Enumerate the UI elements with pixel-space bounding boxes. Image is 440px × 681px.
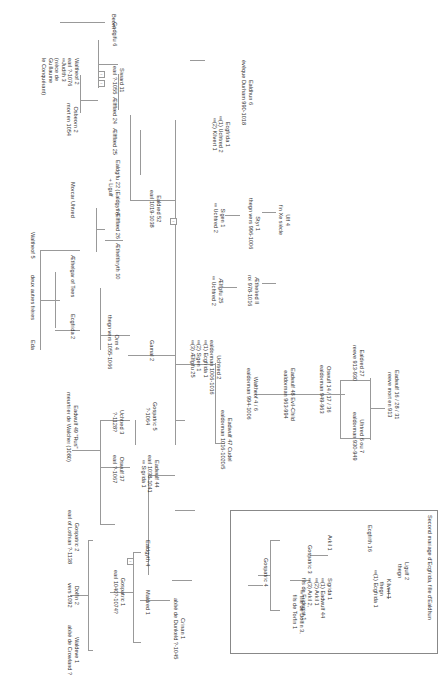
name: Gospatric 2 [73,510,80,564]
collapse-toggle[interactable]: − [98,71,105,78]
detail: fin Xe siècle [278,205,285,235]
connector [248,585,263,586]
detail: earl of Lothian ?-1138 [67,510,74,564]
connector [105,240,123,241]
node-uhtred3: Uchtred 3?-1128? [112,410,125,434]
node-uhtred2: Uchtred 2ealdorman 1006-1016∞(1) Ecgfrid… [189,340,222,395]
name: Æthelred II [253,275,260,306]
detail: abbé de Dunkeld ?-1045 [173,598,180,659]
node-aethelred: Æthelred IIroi 978-1016 [247,275,260,306]
name: Ecgfrida 2 [69,314,76,339]
name: Gamal 2 [148,340,155,361]
detail: ∞(3) Ælfgifu 25 [189,340,196,395]
node-eda: Eda [29,340,36,350]
detail: fils de Torfin 1 [292,590,299,634]
second-marriage-inset [230,510,438,654]
name: Oswulf 14 / 17 / 36 [325,365,332,414]
detail: earl ?-1076 [67,58,74,95]
name: Ælfflæd 25 [111,128,118,155]
detail: le Conquérant) [40,58,47,95]
detail: earl 1038-1041 [147,455,154,493]
connector [370,408,385,409]
node-aelfflaed25: Ælfflæd 25 [111,128,118,155]
connector [222,287,237,288]
connector [96,229,105,230]
node-aelfflaed24: Ælfflæd 24 [111,97,118,124]
name: Kilvert 1 [385,570,392,608]
node-maldred: Maldred 1 [144,590,151,615]
name: Æthelgar of Tees [69,255,76,297]
collapse-toggle[interactable]: − [170,218,177,225]
connector [270,610,280,611]
name: Orm 4 [113,315,120,369]
node-deux-freres: deux autres frères [29,275,36,320]
name: Eadwulf 49 "Rus" [72,392,79,462]
name: Gospatric 5 [151,402,158,431]
name: Uhtred 6 ou 7 [358,412,365,461]
connector [225,215,240,216]
detail: meurtrier de Walcher (1080) [66,392,73,462]
detail: reeve mort en 913 [387,370,394,419]
name: Eadwulf 47 Cudel [226,410,233,469]
detail: ∞(2) Sigen 1 [196,340,203,395]
connector [88,540,89,650]
name: Morcar Uhtred [69,182,76,218]
connector [270,540,280,541]
node-sigen: Sigen 1∞ Uchtred 2 [213,203,226,233]
node-eadwulf44: Eadwulf 44earl 1038-1041∞ Sigrida 1 [140,455,160,493]
node-eadwulf48: Eadwulf 48 Evil-Childealdorman 963-994 [283,368,296,421]
connector [135,420,136,445]
name: Maldred 1 [144,590,151,615]
name: Ealdred 27 [358,345,365,381]
connector [88,650,93,651]
detail: évêque Durham 990-1018 [241,60,248,125]
connector [172,580,192,581]
node-ealdhun: Ealdhun 6évêque Durham 990-1018 [241,60,254,125]
detail: reeve 913-930 [352,345,359,381]
detail: ∞ Sigrida 1 [140,455,147,493]
name: Eadwulf 48 Evil-Child [289,368,296,421]
detail: ∞ Uchtred 2 [213,203,220,233]
node-ealdred52: Ealdred 52earl 1019-1038 [149,190,162,228]
connector [100,288,101,350]
name: Oswulf 37 [118,455,125,483]
name: Godgifu 6 [111,22,118,46]
connector [133,552,134,642]
connector [262,283,276,284]
name: Ealdred 52 [155,190,162,228]
node-arkil: Arkil 1 [326,535,333,551]
detail: mort en 1054 [66,103,73,136]
name: Waltheof 5 [29,232,36,259]
connector [100,524,115,525]
name: Sigen 1 [219,203,226,233]
node-ulf: Ulf 4fin Xe siècle [278,205,291,235]
node-gospatric4: Gospatric 4 [262,558,269,587]
detail: thegn [379,570,386,608]
detail: ealdorman 1006-1016 [209,340,216,395]
detail: abbé de Crowland ? [67,625,74,675]
detail: ealdorman 963-994 [283,368,290,421]
detail: ealdorman 994-1006 [246,368,253,420]
connector [55,272,56,328]
node-oswulf37: Oswulf 37earl ?-1067 [112,455,125,483]
connector [60,22,105,23]
node-eadwulf16: Eadwulf 16 / 28 / 31reeve mort en 913 [387,370,400,419]
collapse-toggle[interactable]: − [98,80,105,87]
connector [40,300,60,301]
name: deux autres frères [29,275,36,320]
node-gamal: Gamal 2 [148,340,155,361]
name: Ealdhun 6 [247,60,254,125]
name: Ealdgyth 4 [144,540,151,566]
node-aelfflaed26: Ælfflæd 26 [114,212,121,239]
name: Ælfflæd 24 [111,97,118,124]
connector [96,208,97,252]
detail: ∞(2) Kilvert 1 [211,116,218,153]
node-dolfin2: Dolfin 2vers 1092 [67,583,80,608]
name: Sigrida 1 [326,578,333,620]
node-ecgfrida1: Ecgfrida 1∞(1) Uchtred 2∞(2) Kilvert 1 [211,116,231,153]
detail: ealdorman 949-963 [319,365,326,414]
node-waltheof5: Waltheof 5 [29,232,36,259]
collapse-toggle[interactable]: − [127,558,134,565]
connector [175,120,176,445]
connector [270,540,271,610]
